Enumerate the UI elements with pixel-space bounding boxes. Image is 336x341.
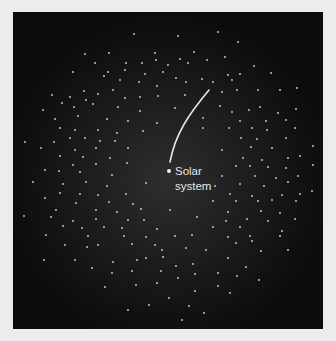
galaxy-panel [13,12,323,329]
solar-system-trajectory [170,90,209,162]
stars [23,31,314,321]
solar-system-label-line1: Solar [175,164,202,178]
solar-system-dot [167,169,171,173]
star-field-figure: Solar system [0,0,336,341]
star-field [13,12,323,329]
solar-system-label-line2: system [175,179,211,193]
